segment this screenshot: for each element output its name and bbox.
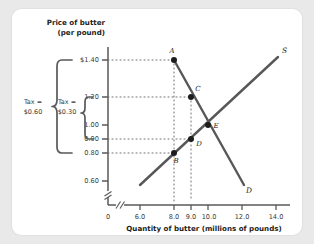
tax-inner-brace: [81, 97, 93, 139]
data-point-D: [188, 136, 194, 142]
supply-curve-label: S: [282, 46, 287, 55]
tax-bracket-inner: Tax = $0.30: [57, 97, 93, 139]
tax-bracket-outer: Tax = $0.60: [23, 60, 72, 153]
data-point-label-E: E: [212, 122, 218, 130]
x-tick-label-6: 6.0: [135, 213, 146, 221]
tax-inner-label-line2: $0.30: [58, 108, 77, 116]
y-tick-label-140: $1.40: [80, 56, 99, 64]
y-axis-title-line2: (per pound): [58, 28, 105, 37]
x-tick-label-14: 14.0: [269, 213, 284, 221]
x-tick-label-0: 0: [106, 213, 110, 221]
guide-lines: [108, 60, 191, 201]
y-tick-label-100: 1.00: [84, 121, 99, 129]
tax-outer-brace: [52, 60, 72, 153]
supply-demand-chart: $1.40 1.20 1.00 0.90 0.80 0.60 0 6.0 8.0…: [12, 9, 302, 235]
x-tick-label-12: 12.0: [235, 213, 250, 221]
data-point-E: [205, 122, 211, 128]
supply-curve: [140, 57, 278, 185]
data-point-A: [171, 57, 177, 63]
y-tick-label-060: 0.60: [84, 177, 99, 185]
data-point-B: [171, 150, 177, 156]
data-point-label-D: D: [195, 140, 202, 148]
x-tick-label-10: 10.0: [202, 213, 217, 221]
figure-card: $1.40 1.20 1.00 0.90 0.80 0.60 0 6.0 8.0…: [12, 9, 302, 235]
data-point-label-B: B: [172, 157, 178, 165]
x-tick-label-9: 9.0: [186, 213, 197, 221]
x-axis-break-mark-2: [120, 202, 125, 209]
y-tick-label-080: 0.80: [84, 149, 99, 157]
data-point-label-C: C: [195, 85, 201, 93]
curves: [140, 57, 278, 185]
tax-inner-label-line1: Tax =: [57, 98, 76, 106]
x-tick-label-8: 8.0: [169, 213, 180, 221]
data-point-C: [188, 94, 194, 100]
tax-outer-label-line1: Tax =: [23, 98, 42, 106]
x-axis-break-mark-1: [116, 202, 121, 209]
y-axis-title-line1: Price of butter: [47, 18, 106, 27]
tax-outer-label-line2: $0.60: [24, 108, 43, 116]
demand-curve-label: D: [245, 186, 252, 195]
x-axis-title: Quantity of butter (millions of pounds): [126, 224, 281, 233]
x-axis-ticks: 0 6.0 8.0 9.0 10.0 12.0 14.0: [106, 205, 283, 221]
data-point-label-A: A: [168, 47, 174, 55]
